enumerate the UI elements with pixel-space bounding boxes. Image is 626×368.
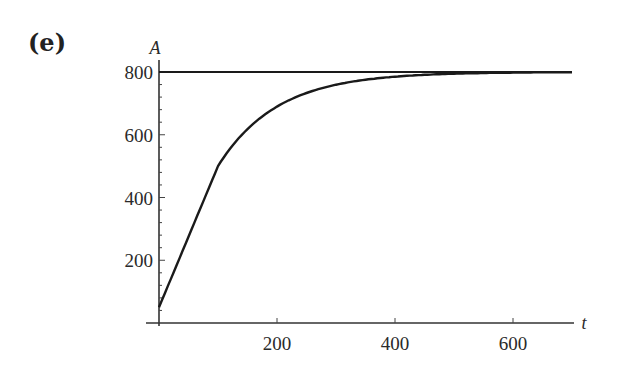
y-tick-label: 400	[125, 188, 154, 209]
y-tick-label: 200	[125, 250, 154, 271]
curve-A-of-t	[159, 72, 572, 307]
axes	[146, 60, 574, 326]
ticks	[159, 72, 513, 323]
y-axis-label: A	[149, 38, 162, 58]
x-tick-label: 200	[263, 333, 292, 354]
y-tick-label: 800	[125, 62, 154, 83]
x-tick-label: 400	[381, 333, 410, 354]
data-lines	[159, 72, 572, 307]
tick-labels: 200400600800200400600At	[125, 38, 588, 354]
line-chart: 200400600800200400600At	[0, 0, 626, 368]
x-tick-label: 600	[499, 333, 528, 354]
y-tick-label: 600	[125, 125, 154, 146]
x-axis-label: t	[581, 313, 587, 333]
